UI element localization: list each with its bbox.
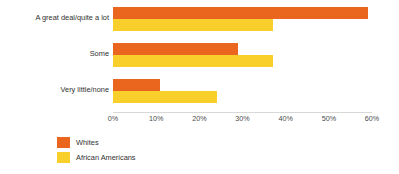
tick-label-5: 50% <box>322 114 336 124</box>
value-axis-line <box>113 112 372 113</box>
bar-group-0 <box>113 4 372 36</box>
value-axis-ticks: 0% 10% 20% 30% 40% 50% 60% <box>113 114 372 126</box>
category-label-1: Some <box>0 49 109 58</box>
legend-label-whites: Whites <box>76 138 99 148</box>
bar-whites-0 <box>113 7 368 19</box>
tick-label-2: 20% <box>192 114 206 124</box>
legend-item-african-americans: African Americans <box>57 151 136 164</box>
bar-african-americans-1 <box>113 55 273 67</box>
tick-label-4: 40% <box>278 114 292 124</box>
category-label-2: Very little/none <box>0 85 109 94</box>
bar-whites-1 <box>113 43 238 55</box>
bar-whites-2 <box>113 79 160 91</box>
plot-area <box>113 4 372 112</box>
legend-swatch-african-americans <box>57 152 70 163</box>
chart-legend: Whites African Americans <box>57 136 136 166</box>
bar-african-americans-0 <box>113 19 273 31</box>
tick-label-6: 60% <box>365 114 379 124</box>
bar-group-1 <box>113 40 372 72</box>
tick-label-3: 30% <box>235 114 249 124</box>
tick-label-0: 0% <box>108 114 118 124</box>
legend-item-whites: Whites <box>57 136 136 149</box>
bar-african-americans-2 <box>113 91 217 103</box>
category-label-0: A great deal/quite a lot <box>0 13 109 22</box>
legend-label-african-americans: African Americans <box>76 153 136 163</box>
legend-swatch-whites <box>57 137 70 148</box>
tick-label-1: 10% <box>149 114 163 124</box>
bar-chart: A great deal/quite a lot Some Very littl… <box>0 0 399 174</box>
bar-group-2 <box>113 76 372 108</box>
category-axis: A great deal/quite a lot Some Very littl… <box>0 4 109 112</box>
